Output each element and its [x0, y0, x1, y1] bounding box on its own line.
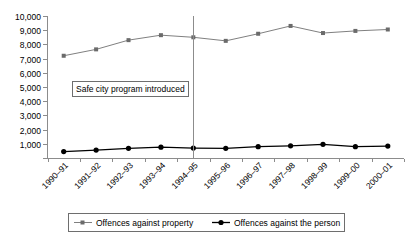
- x-tick-label: 1996–97: [234, 160, 265, 191]
- y-tick-label: 1,000: [20, 140, 42, 150]
- data-point-marker: [256, 32, 260, 36]
- y-axis: 1,0002,0003,0004,0005,0006,0007,0008,000…: [15, 12, 48, 159]
- data-point-marker: [127, 38, 131, 42]
- y-tick-label: 7,000: [20, 55, 42, 65]
- y-tick-label: 2,000: [20, 126, 42, 136]
- chart-canvas: 1,0002,0003,0004,0005,0006,0007,0008,000…: [0, 0, 412, 243]
- x-tick-label: 1995–96: [202, 160, 233, 191]
- data-point-marker: [61, 149, 66, 154]
- data-point-marker: [159, 33, 163, 37]
- data-point-marker: [353, 144, 358, 149]
- data-point-marker: [126, 146, 131, 151]
- chart-legend: Offences against property Offences again…: [69, 214, 345, 232]
- annotation-safe-city-program: Safe city program introduced: [72, 16, 194, 158]
- y-tick-label: 6,000: [20, 69, 42, 79]
- data-point-marker: [353, 29, 357, 33]
- legend-circle-marker-icon: [218, 220, 223, 225]
- x-tick-label: 1990–91: [40, 160, 71, 191]
- y-axis-ticks: [43, 17, 48, 159]
- data-point-marker: [289, 24, 293, 28]
- y-tick-label: 9,000: [20, 26, 42, 36]
- x-tick-label: 1997–98: [267, 160, 298, 191]
- x-axis: 1990–911991–921992–931993–941994–951995–…: [40, 159, 405, 191]
- data-point-marker: [288, 143, 293, 148]
- y-tick-label: 4,000: [20, 97, 42, 107]
- y-tick-label: 8,000: [20, 40, 42, 50]
- series-markers-offences-against-the-person: [61, 142, 390, 154]
- x-axis-ticks: [49, 159, 405, 163]
- x-tick-label: 1994–95: [169, 160, 200, 191]
- legend-label-person: Offences against the person: [234, 218, 340, 228]
- data-point-marker: [94, 47, 98, 51]
- data-point-marker: [158, 145, 163, 150]
- data-point-marker: [94, 147, 99, 152]
- legend-label-property: Offences against property: [96, 218, 194, 228]
- data-point-marker: [223, 146, 228, 151]
- annotation-label-text: Safe city program introduced: [76, 84, 185, 94]
- series-markers-offences-against-property: [62, 24, 390, 58]
- x-tick-label: 1992–93: [104, 160, 135, 191]
- x-tick-label: 1999–00: [331, 160, 362, 191]
- legend-square-marker-icon: [81, 221, 85, 225]
- data-point-marker: [385, 143, 390, 148]
- x-tick-label: 1998–99: [299, 160, 330, 191]
- data-point-marker: [386, 27, 390, 31]
- data-point-marker: [62, 54, 66, 58]
- y-tick-label: 10,000: [15, 12, 41, 22]
- x-axis-tick-labels: 1990–911991–921992–931993–941994–951995–…: [40, 160, 395, 191]
- y-tick-label: 5,000: [20, 83, 42, 93]
- data-point-marker: [320, 142, 325, 147]
- x-tick-label: 1993–94: [137, 160, 168, 191]
- x-tick-label: 1991–92: [72, 160, 103, 191]
- data-point-marker: [256, 144, 261, 149]
- data-point-marker: [321, 31, 325, 35]
- data-point-marker: [224, 39, 228, 43]
- y-axis-tick-labels: 1,0002,0003,0004,0005,0006,0007,0008,000…: [15, 12, 41, 150]
- y-tick-label: 3,000: [20, 111, 42, 121]
- x-tick-label: 2000–01: [364, 160, 395, 191]
- line-chart: 1,0002,0003,0004,0005,0006,0007,0008,000…: [0, 0, 412, 243]
